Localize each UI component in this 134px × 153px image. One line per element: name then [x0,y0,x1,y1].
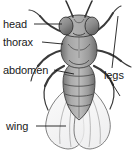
antenna-left [66,1,73,17]
leader-line-thorax [42,42,63,44]
label-thorax: thorax [3,37,33,48]
label-legs: legs [104,70,124,81]
leg-right-middle [95,50,121,61]
leg-right-middle-tarsus [121,61,131,67]
head-group [59,1,99,37]
label-head: head [3,19,27,30]
label-wing: wing [6,121,28,132]
compound-eye-right [85,17,99,35]
leader-line-legs-upper [112,16,118,68]
leg-right-front-tarsus [113,6,121,13]
leg-right-hind-tarsus [110,85,114,109]
leader-line-legs-lower [110,80,120,96]
leg-left-front-tarsus [29,10,40,16]
label-abdomen: abdomen [3,65,48,76]
compound-eye-left [59,17,73,35]
antenna-right [85,1,92,17]
fly-anatomy-diagram: head thorax abdomen legs wing [0,0,134,153]
leg-left-hind-tarsus [44,86,48,110]
